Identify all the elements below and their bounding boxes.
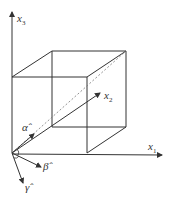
alpha-label: α̂	[22, 121, 33, 133]
gamma-label: γ̂	[25, 181, 34, 193]
cube-diagram: x3 x1 x2 α̂ β̂ γ̂	[0, 0, 169, 200]
x1-label: x1	[147, 140, 157, 155]
beta-label: β̂	[42, 160, 53, 172]
alpha-vector	[12, 134, 34, 153]
x2-label: x2	[103, 89, 113, 104]
cube-front-face	[12, 77, 87, 153]
x3-label: x3	[16, 12, 26, 27]
cube-back-edges	[52, 51, 126, 127]
x1-axis	[12, 154, 162, 155]
